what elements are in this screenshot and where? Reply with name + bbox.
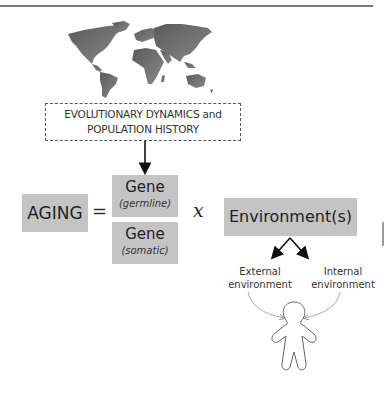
internal-line2: environment [306, 278, 380, 291]
curve-external-to-person [248, 292, 284, 318]
external-line1: External [223, 265, 297, 278]
arrow-to-external [273, 238, 290, 257]
internal-environment-label: Internal environment [306, 265, 380, 291]
external-environment-label: External environment [223, 265, 297, 291]
arrow-to-internal [290, 238, 307, 257]
gene-germline-box: Gene (germline) [112, 175, 178, 217]
equals-sign: = [92, 200, 107, 221]
gene-germline-label: Gene [112, 178, 178, 197]
gene-somatic-label: Gene [112, 225, 178, 244]
internal-line1: Internal [306, 265, 380, 278]
edge-bar-mark [382, 222, 384, 246]
gene-somatic-box: Gene (somatic) [112, 222, 178, 264]
aging-label: AGING [27, 203, 82, 223]
multiply-symbol: x [193, 199, 204, 221]
environment-box: Environment(s) [224, 198, 357, 236]
gene-germline-sublabel: (germline) [112, 197, 178, 211]
external-line2: environment [223, 278, 297, 291]
aging-box: AGING [22, 194, 88, 232]
gene-somatic-sublabel: (somatic) [112, 244, 178, 258]
human-figure-icon [272, 302, 316, 370]
curve-internal-to-person [304, 292, 340, 318]
environment-label: Environment(s) [229, 207, 352, 226]
